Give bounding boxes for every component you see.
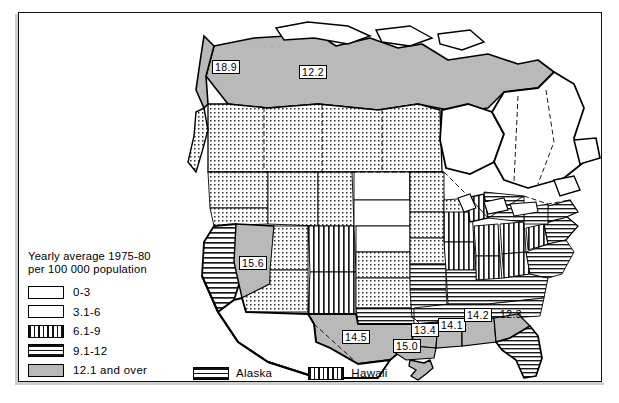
region-canada-east — [492, 72, 600, 196]
inset-legend-alaska: Alaska — [193, 367, 272, 380]
legend-swatch-horizontal — [28, 344, 64, 357]
legend-label-0-3: 0-3 — [73, 286, 91, 298]
legend-label-12-over: 12.1 and over — [73, 364, 147, 376]
value-label-nevada: 15.6 — [239, 256, 267, 270]
value-label-texas: 14.5 — [342, 330, 370, 344]
legend-row-0-3: 0-3 — [28, 284, 228, 301]
value-label-mississippi: 13.4 — [411, 323, 439, 337]
legend-label-3-6: 3.1-6 — [73, 306, 101, 318]
inset-legend: Alaska Hawaii — [193, 362, 440, 384]
legend-swatch-dotted-grid — [28, 305, 64, 318]
legend-swatch-blank — [28, 286, 64, 299]
value-label-south-carolina: 12.3 — [500, 308, 522, 320]
region-canada-prairies — [208, 104, 442, 172]
inset-legend-hawaii: Hawaii — [308, 367, 387, 380]
alaska-label: Alaska — [236, 367, 272, 379]
hawaii-swatch-vertical — [308, 367, 344, 380]
value-label-yukon-nwt-west: 18.9 — [212, 60, 240, 74]
alaska-swatch-horizontal — [193, 367, 229, 380]
legend-swatch-solid-gray — [28, 364, 64, 377]
value-label-alabama: 14.1 — [438, 318, 466, 332]
legend-label-9-12: 9.1-12 — [73, 345, 107, 357]
faded-illegible-label: · · · · · — [248, 41, 282, 51]
legend-label-6-9: 6.1-9 — [73, 325, 101, 337]
value-label-louisiana: 15.0 — [393, 339, 421, 353]
region-pacific-northwest — [208, 172, 354, 226]
legend-swatch-vertical — [28, 325, 64, 338]
legend-row-9-12: 9.1-12 — [28, 342, 228, 359]
legend-row-6-9: 6.1-9 — [28, 323, 228, 340]
legend-title: Yearly average 1975-80 per 100 000 popul… — [28, 250, 228, 277]
figure-root: · · · · · 18.9 12.2 15.6 14.5 15.0 13.4 … — [0, 0, 619, 403]
legend-row-3-6: 3.1-6 — [28, 303, 228, 320]
hawaii-label: Hawaii — [351, 367, 387, 379]
value-label-georgia: 14.2 — [464, 308, 492, 322]
baja-sliver-icon — [406, 358, 440, 384]
value-label-northwest-territories: 12.2 — [299, 65, 327, 79]
